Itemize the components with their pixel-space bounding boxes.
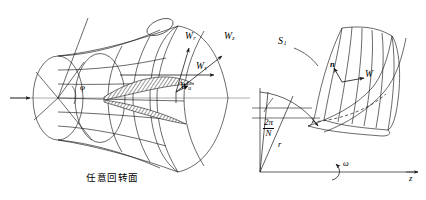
left-diagram-panel: Wr Wz Ws Wu φ 任意回转面: [0, 0, 250, 200]
label-omega: ω: [343, 160, 349, 168]
label-n-normal: n: [330, 60, 335, 69]
hoop-curve-2: [133, 36, 150, 162]
generator-7: [58, 140, 160, 168]
blade-passage-surface: [252, 27, 418, 180]
pitch-angle-arc: [264, 98, 273, 112]
figure-root: Wr Wz Ws Wu φ 任意回转面: [0, 0, 426, 200]
label-S1-surface: S1: [278, 36, 286, 47]
ruling-2: [338, 27, 352, 122]
S1-leader-line: [294, 48, 318, 66]
label-z-axis: z: [409, 174, 412, 183]
hoop-curve-4: [184, 31, 204, 166]
blade-lower-edge: [308, 36, 392, 126]
generator-2: [58, 58, 166, 70]
blade-leading-edge: [308, 28, 342, 126]
ruling-3: [352, 28, 362, 124]
blade-tip-edge: [342, 27, 392, 36]
radius-line-b: [34, 98, 58, 120]
ruling-1: [324, 28, 342, 120]
right-diagram-panel: S1 n W r 2π N ω z: [246, 0, 426, 200]
generator-1: [58, 30, 160, 56]
radius-line-d: [58, 62, 84, 98]
label-phi-angle: φ: [80, 83, 85, 92]
outlet-rim-left: [150, 26, 178, 172]
hidden-edge-dashed: [312, 94, 386, 122]
outlet-rim-right: [178, 26, 228, 172]
label-pitch-angle-fraction: 2π N: [263, 118, 274, 138]
pitch-angle-denominator: N: [263, 129, 274, 138]
label-Wu: Wu: [180, 82, 191, 92]
vector-n-arrow: [334, 68, 342, 82]
label-Ws: Ws: [196, 62, 207, 72]
blade-thickness-band: [308, 126, 390, 136]
generator-4: [58, 98, 184, 101]
blade-section-lower: [104, 100, 186, 124]
label-Wr: Wr: [185, 32, 196, 42]
label-Wz: Wz: [224, 32, 235, 42]
hub-and-shroud-surface: [10, 15, 250, 172]
pitch-angle-numerator: 2π: [263, 118, 274, 127]
right-diagram-svg: [246, 0, 426, 200]
shroud-upper-bound: [58, 26, 178, 56]
blade-tip-ellipse: [144, 15, 175, 39]
left-diagram-caption: 任意回转面: [86, 170, 139, 184]
radius-line-a: [36, 72, 58, 98]
label-W-velocity: W: [365, 70, 373, 80]
label-r-radius: r: [278, 140, 281, 149]
